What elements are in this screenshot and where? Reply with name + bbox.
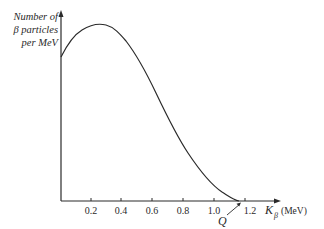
- x-tick-label: 0.6: [146, 205, 159, 216]
- x-axis-arrow-icon: [274, 199, 281, 204]
- spectrum-curve: [61, 24, 239, 201]
- beta-spectrum-chart: 0.2 0.4 0.6 0.8 1.0 1.2 K β (MeV) Q: [0, 0, 324, 228]
- x-axis-unit: (MeV): [281, 206, 307, 217]
- y-axis-arrow-icon: [59, 10, 64, 17]
- x-tick-label: 0.4: [115, 205, 128, 216]
- endpoint-label-q: Q: [218, 214, 227, 228]
- x-axis-label: K β (MeV): [264, 203, 307, 220]
- x-axis-subscript: β: [273, 211, 278, 220]
- x-axis-symbol: K: [264, 203, 274, 217]
- endpoint-annotation: Q: [218, 203, 241, 229]
- x-tick-label: 0.2: [85, 205, 98, 216]
- x-tick-labels: 0.2 0.4 0.6 0.8 1.0 1.2: [85, 205, 257, 216]
- x-tick-label: 1.2: [244, 205, 257, 216]
- x-tick-label: 0.8: [177, 205, 190, 216]
